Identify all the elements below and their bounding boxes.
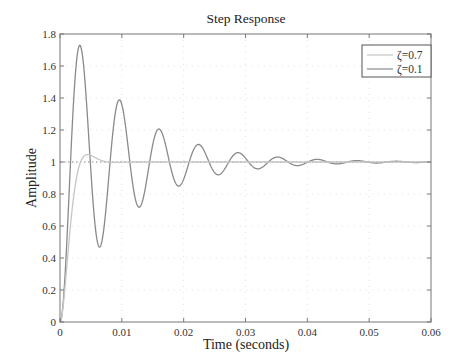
y-tick-label: 1.8 bbox=[42, 28, 56, 40]
legend-label-zeta-0.7: ζ=0.7 bbox=[397, 49, 423, 62]
y-tick-label: 1 bbox=[51, 156, 57, 168]
y-tick-label: 1.6 bbox=[42, 60, 56, 72]
x-tick-label: 0.04 bbox=[298, 326, 318, 338]
x-tick-label: 0.06 bbox=[421, 326, 441, 338]
legend: ζ=0.7 ζ=0.1 bbox=[362, 45, 431, 77]
x-tick-label: 0.02 bbox=[174, 326, 193, 338]
y-tick-label: 0.2 bbox=[42, 284, 56, 296]
x-axis-label: Time (seconds) bbox=[203, 337, 290, 353]
x-tick-label: 0.01 bbox=[112, 326, 131, 338]
x-tick-label: 0.05 bbox=[360, 326, 380, 338]
x-axis-ticks: 00.010.020.030.040.050.06 bbox=[57, 34, 441, 338]
y-tick-label: 0.8 bbox=[42, 188, 56, 200]
y-axis-label: Amplitude bbox=[24, 148, 39, 208]
legend-label-zeta-0.1: ζ=0.1 bbox=[397, 63, 423, 76]
step-response-chart: Step Response 00.010.020.030.040.050.06 … bbox=[0, 0, 460, 363]
y-tick-label: 0.4 bbox=[42, 252, 56, 264]
x-tick-label: 0 bbox=[57, 326, 63, 338]
y-tick-label: 0 bbox=[51, 316, 57, 328]
y-tick-label: 1.2 bbox=[42, 124, 56, 136]
chart-title: Step Response bbox=[206, 11, 285, 26]
y-tick-label: 0.6 bbox=[42, 220, 56, 232]
y-tick-label: 1.4 bbox=[42, 92, 56, 104]
